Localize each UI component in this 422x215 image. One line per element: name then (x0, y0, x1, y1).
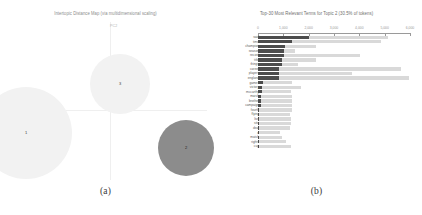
bar-topic-frequency (258, 95, 261, 98)
topic-bubble-2[interactable]: 2 (158, 120, 214, 176)
bar-topic-frequency (258, 86, 262, 89)
topic-bubble-label: 1 (25, 131, 27, 135)
bar-overall-frequency (258, 145, 291, 148)
topic-bubble-1[interactable]: 1 (0, 87, 72, 179)
barchart-xtick-label: 5,000 (380, 26, 389, 30)
bar-overall-frequency (258, 104, 292, 107)
barchart-xtick-label: 6,000 (406, 26, 415, 30)
bar-overall-frequency (258, 67, 401, 70)
bar-topic-frequency (258, 90, 262, 93)
bar-overall-frequency (258, 95, 292, 98)
panel-intertopic-distance-map: Intertopic Distance Map (via multidimens… (0, 0, 211, 215)
barchart-xtick-label: 1,000 (279, 26, 288, 30)
bar-topic-frequency (258, 58, 282, 61)
bar-overall-frequency (258, 76, 409, 79)
panel-top-terms-barchart: Top-30 Most Relevant Terms for Topic 2 (… (211, 0, 422, 215)
bar-topic-frequency (258, 99, 261, 102)
bar-overall-frequency (258, 99, 292, 102)
bar-overall-frequency (258, 117, 291, 120)
panel-b-caption: (b) (211, 186, 422, 196)
bar-topic-frequency (258, 36, 309, 39)
bar-topic-frequency (258, 122, 259, 125)
bar-topic-frequency (258, 136, 259, 139)
bar-topic-frequency (258, 49, 284, 52)
bar-overall-frequency (258, 136, 282, 139)
bar-overall-frequency (258, 113, 290, 116)
mds-axis-label-pc2: PC2 (110, 24, 117, 28)
barchart-title: Top-30 Most Relevant Terms for Topic 2 (… (211, 11, 422, 17)
figure-root: Intertopic Distance Map (via multidimens… (0, 0, 422, 215)
bar-overall-frequency (258, 126, 290, 129)
barchart-plot[interactable]: 01,0002,0003,0004,0005,0006,000 saidtime… (211, 22, 422, 180)
bar-topic-frequency (258, 113, 259, 116)
panel-a-caption: (a) (0, 186, 211, 196)
bar-topic-frequency (258, 45, 285, 48)
bar-topic-frequency (258, 67, 279, 70)
bar-topic-frequency (258, 54, 284, 57)
barchart-xtick-label: 3,000 (330, 26, 339, 30)
bar-topic-frequency (258, 108, 259, 111)
bar-overall-frequency (258, 86, 301, 89)
bar-topic-frequency (258, 81, 263, 84)
bar-overall-frequency (258, 140, 286, 143)
bar-overall-frequency (258, 108, 292, 111)
barchart-xtick-label: 4,000 (355, 26, 364, 30)
bar-overall-frequency (258, 90, 291, 93)
intertopic-map-title: Intertopic Distance Map (via multidimens… (0, 11, 211, 17)
barchart-rows: saidtimechampionseasonrecordtitlethingsc… (211, 35, 422, 149)
barchart-xtick-label: 0 (257, 26, 259, 30)
topic-bubble-label: 2 (185, 146, 187, 150)
bar-topic-frequency (258, 63, 282, 66)
barchart-xtick-label: 2,000 (304, 26, 313, 30)
bar-overall-frequency (258, 122, 291, 125)
barchart-row[interactable]: cup (211, 144, 422, 149)
topic-bubble-3[interactable]: 3 (90, 54, 150, 114)
intertopic-map-plot[interactable]: PC2 PC1 132 (4, 22, 207, 180)
bar-topic-frequency (258, 72, 279, 75)
bar-overall-frequency (258, 131, 280, 134)
bar-topic-frequency (258, 117, 259, 120)
topic-bubble-label: 3 (119, 82, 121, 86)
bar-topic-frequency (258, 104, 261, 107)
bar-topic-frequency (258, 40, 292, 43)
bar-overall-frequency (258, 81, 292, 84)
bar-topic-frequency (258, 76, 279, 79)
